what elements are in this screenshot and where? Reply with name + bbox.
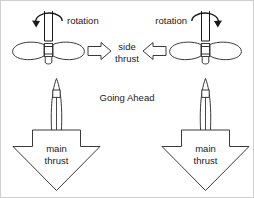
rotation-label-left: rotation — [67, 15, 99, 26]
hub-boss-left — [45, 57, 52, 64]
shaft-left — [45, 11, 53, 41]
propeller-unit-left: rotation — [13, 11, 111, 191]
main-thrust-label-left-line1: main — [46, 143, 67, 154]
side-thrust-label-line2: thrust — [115, 53, 139, 64]
side-thrust-label-line1: side — [118, 41, 135, 52]
hub-boss-right — [202, 57, 209, 64]
main-thrust-label-right-line2: thrust — [194, 155, 218, 166]
main-thrust-label-left-line2: thrust — [45, 155, 69, 166]
diagram-canvas: rotation — [0, 0, 254, 198]
propeller-unit-right: rotation — [143, 11, 249, 191]
side-thrust-arrow-right — [143, 43, 166, 60]
rotation-arrow-left — [32, 13, 62, 28]
shaft-right — [202, 11, 210, 41]
rotation-label-right: rotation — [155, 15, 187, 26]
side-thrust-arrow-left — [88, 43, 111, 60]
propeller-thrust-diagram: rotation — [0, 0, 254, 198]
going-ahead-caption: Going Ahead — [100, 92, 155, 103]
main-thrust-label-right-line1: main — [195, 143, 216, 154]
rotation-arrow-right — [192, 13, 222, 28]
